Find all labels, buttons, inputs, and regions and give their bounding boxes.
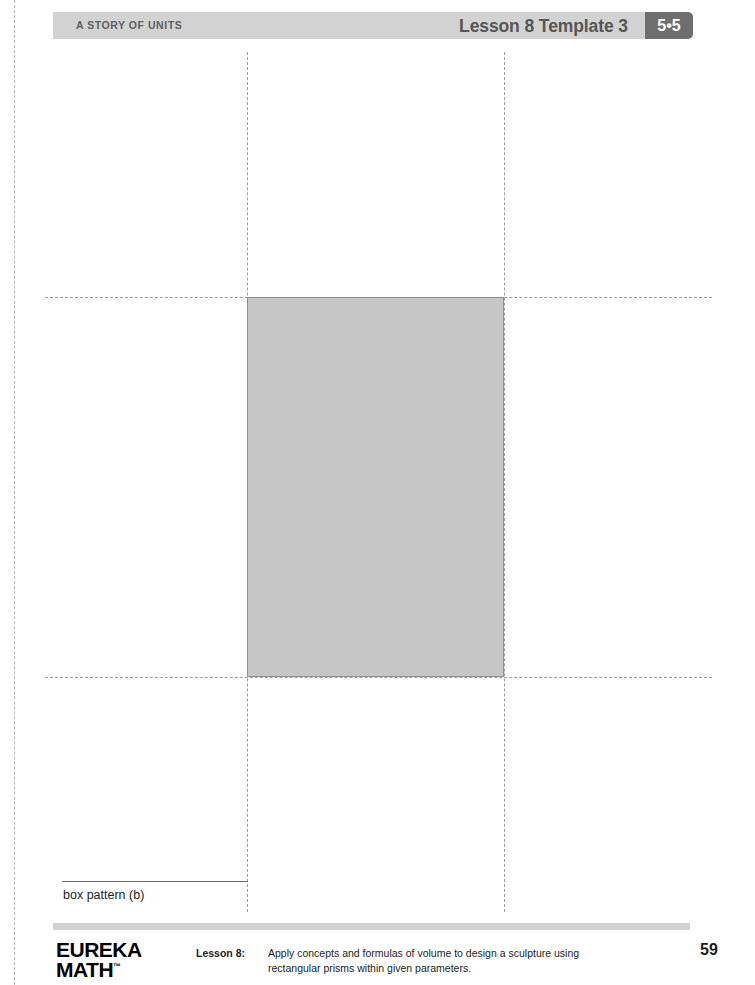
box-pattern-caption: box pattern (b) <box>63 888 144 902</box>
fold-line-horizontal-bottom <box>45 677 712 678</box>
page-number: 59 <box>700 941 718 959</box>
logo-math-text: MATH <box>56 958 113 981</box>
page-trim-guide-line <box>14 0 15 985</box>
lesson-template-title: Lesson 8 Template 3 <box>459 16 628 37</box>
fold-line-vertical-right <box>504 52 505 912</box>
shaded-box-face <box>247 297 504 677</box>
caption-rule-line <box>62 881 248 882</box>
footer-divider <box>53 923 690 930</box>
footer-lesson-description: Apply concepts and formulas of volume to… <box>268 946 598 976</box>
grade-module-badge: 5•5 <box>645 12 693 39</box>
logo-line-math: MATH™ <box>56 960 142 980</box>
series-title: A STORY OF UNITS <box>76 19 182 31</box>
eureka-math-logo: EUREKA MATH™ <box>56 940 142 979</box>
trademark-icon: ™ <box>113 962 121 971</box>
footer-lesson-label: Lesson 8: <box>196 947 245 959</box>
page-header-bar: A STORY OF UNITS Lesson 8 Template 3 <box>53 12 645 39</box>
worksheet-page: A STORY OF UNITS Lesson 8 Template 3 5•5… <box>0 0 755 985</box>
